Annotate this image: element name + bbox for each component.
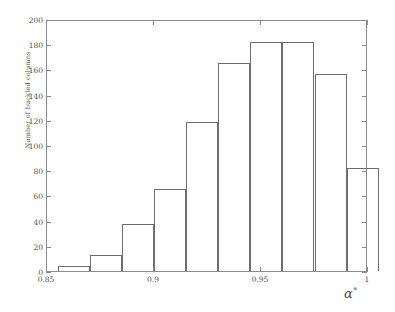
y-axis-tick (362, 171, 367, 172)
histogram-bar (250, 42, 282, 271)
histogram-bar (122, 224, 154, 271)
x-axis-tick (46, 20, 47, 25)
y-axis-tick-label: 20 (3, 242, 43, 251)
x-axis-tick (153, 267, 154, 272)
y-axis-tick (362, 70, 367, 71)
histogram-figure: Number of buckled columns 02040608010012… (0, 0, 395, 312)
y-axis-tick (46, 70, 51, 71)
y-axis-tick (362, 247, 367, 248)
y-axis-tick (362, 45, 367, 46)
y-axis-tick-label: 160 (3, 66, 43, 75)
y-axis-tick (362, 96, 367, 97)
y-axis-tick (362, 272, 367, 273)
x-axis-title-symbol: α (344, 286, 353, 301)
x-axis-tick (260, 20, 261, 25)
x-axis-tick-label: 0.95 (240, 275, 280, 284)
x-axis-tick (153, 20, 154, 25)
y-axis-tick-label: 120 (3, 116, 43, 125)
y-axis-tick (362, 121, 367, 122)
y-axis-tick (46, 121, 51, 122)
x-axis-tick (260, 267, 261, 272)
x-axis-tick (46, 267, 47, 272)
y-axis-tick (362, 222, 367, 223)
histogram-bar (90, 255, 122, 271)
y-axis-tick-label: 140 (3, 91, 43, 100)
x-axis-tick-label: 0.85 (26, 275, 66, 284)
x-axis-tick-label: 0.9 (133, 275, 173, 284)
histogram-bar (186, 122, 218, 271)
y-axis-tick-label: 100 (3, 142, 43, 151)
y-axis-tick-label: 60 (3, 192, 43, 201)
y-axis-tick (362, 196, 367, 197)
plot-area (46, 20, 367, 272)
x-axis-tick (367, 20, 368, 25)
x-axis-title: α* (344, 286, 357, 301)
histogram-bar (282, 42, 314, 271)
histogram-bar (347, 168, 379, 271)
y-axis-tick-label: 180 (3, 41, 43, 50)
y-axis-tick (362, 146, 367, 147)
y-axis-tick-label: 40 (3, 217, 43, 226)
x-axis-tick (367, 267, 368, 272)
y-axis-tick (46, 196, 51, 197)
histogram-bar (58, 266, 90, 271)
bars-group (47, 21, 366, 271)
y-axis-tick-label: 80 (3, 167, 43, 176)
y-axis-tick (46, 45, 51, 46)
y-axis-tick (46, 171, 51, 172)
histogram-bar (315, 74, 347, 271)
y-axis-tick (46, 272, 51, 273)
x-axis-title-superscript: * (353, 286, 357, 295)
y-axis-tick-label: 200 (3, 16, 43, 25)
y-axis-tick (46, 146, 51, 147)
x-axis-tick-label: 1 (347, 275, 387, 284)
histogram-bar (218, 63, 250, 271)
y-axis-tick (46, 222, 51, 223)
histogram-bar (154, 189, 186, 271)
y-axis-tick (46, 96, 51, 97)
y-axis-tick (46, 247, 51, 248)
